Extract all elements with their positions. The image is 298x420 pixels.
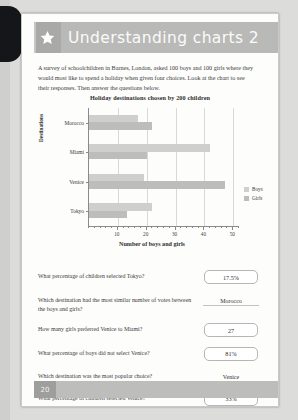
x-axis-tick-label: 30: [172, 231, 177, 237]
question-text: Which destination had the most similar n…: [38, 294, 200, 314]
x-axis-minor-tick: [186, 226, 187, 228]
chart-gridline: [176, 108, 177, 226]
answer-blank-line[interactable]: Morocco: [203, 294, 259, 306]
chart-plot-area: MoroccoMiamiVeniceTokyo: [88, 108, 239, 226]
x-axis-minor-tick: [198, 226, 199, 228]
y-axis-tick-label: Venice: [69, 179, 84, 185]
question-text: Which destination was the most popular c…: [38, 370, 200, 381]
answer-cell: 17.5%: [200, 270, 262, 284]
x-axis-minor-tick: [215, 226, 216, 228]
chart-bar-girls: [89, 122, 152, 130]
x-axis-minor-tick: [157, 226, 158, 228]
x-axis-minor-tick: [226, 226, 227, 228]
x-axis-major-tick: [232, 226, 233, 230]
x-axis-minor-tick: [128, 226, 129, 228]
answer-box[interactable]: 81%: [204, 347, 258, 361]
question-text: What percentage of boys did not select V…: [38, 347, 200, 358]
x-axis-minor-tick: [192, 226, 193, 228]
x-axis-label: Number of boys and girls: [36, 241, 268, 247]
x-axis-minor-tick: [123, 226, 124, 228]
answer-box[interactable]: 27: [204, 323, 258, 337]
chart-bar-girls: [89, 152, 147, 160]
question-text: What percentage of children selected Tok…: [38, 270, 200, 281]
question-row: Which destination had the most similar n…: [38, 294, 262, 314]
x-axis-tick-label: 20: [143, 231, 148, 237]
y-axis-tick-label: Morocco: [65, 120, 84, 126]
x-axis-minor-tick: [209, 226, 210, 228]
binder-edge-strip: [0, 0, 10, 420]
legend-item: Girls: [244, 195, 263, 201]
chart-bar-girls: [89, 211, 127, 219]
chart-bar-boys: [89, 174, 144, 182]
x-axis-major-tick: [146, 226, 147, 230]
y-axis-tick: [86, 182, 89, 183]
scanned-page-surface: Understanding charts 2 A survey of schoo…: [0, 0, 298, 420]
answer-cell: 27: [200, 323, 262, 337]
question-row: What percentage of children selected Tok…: [38, 270, 262, 284]
bar-chart: Destinations MoroccoMiamiVeniceTokyo 102…: [36, 104, 268, 262]
question-row: What percentage of boys did not select V…: [38, 347, 262, 361]
x-axis-tick-label: 50: [230, 231, 235, 237]
page-title: Understanding charts 2: [68, 29, 259, 47]
y-axis-tick-label: Miami: [70, 149, 84, 155]
legend-label: Girls: [252, 195, 262, 201]
chart-gridline: [233, 108, 234, 226]
page-number: 20: [34, 381, 56, 398]
legend-swatch-icon: [244, 196, 249, 201]
chart-bar-girls: [89, 181, 225, 189]
x-axis-tick-label: 10: [114, 231, 119, 237]
x-axis-minor-tick: [163, 226, 164, 228]
x-axis-minor-tick: [105, 226, 106, 228]
x-axis-minor-tick: [151, 226, 152, 228]
x-axis-minor-tick: [169, 226, 170, 228]
x-axis-minor-tick: [94, 226, 95, 228]
binder-clip: [0, 6, 22, 62]
x-axis-tick-label: 40: [201, 231, 206, 237]
x-axis-minor-tick: [100, 226, 101, 228]
x-axis-minor-tick: [221, 226, 222, 228]
y-axis-tick: [86, 211, 89, 212]
x-axis-minor-tick: [88, 226, 89, 228]
chart-legend: BoysGirls: [244, 186, 263, 204]
x-axis: 1020304050: [88, 226, 238, 227]
x-axis-major-tick: [175, 226, 176, 230]
y-axis-tick: [86, 152, 89, 153]
chart-gridline: [204, 108, 205, 226]
answer-box[interactable]: 17.5%: [204, 270, 258, 284]
x-axis-major-tick: [203, 226, 204, 230]
worksheet-page: Understanding charts 2 A survey of schoo…: [21, 13, 279, 407]
chart-bar-boys: [89, 144, 210, 152]
header-banner: Understanding charts 2: [34, 22, 278, 53]
x-axis-minor-tick: [238, 226, 239, 228]
banner-divider: [34, 22, 36, 53]
chart-bar-boys: [89, 203, 152, 211]
legend-label: Boys: [252, 186, 263, 192]
x-axis-minor-tick: [140, 226, 141, 228]
y-axis-tick: [86, 123, 89, 124]
answer-cell: 81%: [200, 347, 262, 361]
answer-cell: Morocco: [200, 294, 262, 306]
question-row: How many girls preferred Venice to Miami…: [38, 323, 262, 337]
legend-swatch-icon: [244, 187, 249, 192]
page-footer: 20: [34, 381, 278, 398]
intro-paragraph: A survey of schoolchildren in Barnes, Lo…: [38, 64, 256, 94]
legend-item: Boys: [244, 186, 263, 192]
x-axis-minor-tick: [180, 226, 181, 228]
x-axis-major-tick: [117, 226, 118, 230]
y-axis-label: Destinations: [38, 114, 44, 142]
chart-bar-boys: [89, 115, 138, 123]
question-text: How many girls preferred Venice to Miami…: [38, 323, 200, 334]
x-axis-minor-tick: [111, 226, 112, 228]
chart-title: Holiday destinations chosen by 200 child…: [22, 94, 278, 101]
y-axis-tick-label: Tokyo: [70, 208, 84, 214]
star-icon: [34, 22, 61, 53]
x-axis-minor-tick: [134, 226, 135, 228]
